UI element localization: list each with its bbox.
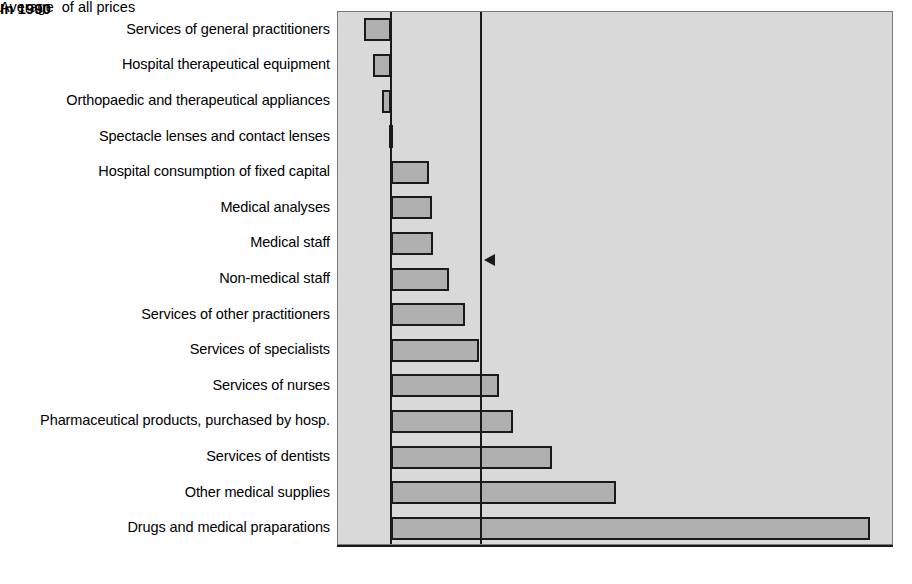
bar [391, 481, 616, 504]
average-arrow-head-icon [484, 254, 495, 266]
category-label: Medical staff [0, 235, 330, 250]
year-badge: In 1990 [0, 0, 51, 17]
bar [391, 303, 465, 326]
bar-chart: Services of general practitionersHospita… [0, 0, 912, 584]
category-axis-labels: Services of general practitionersHospita… [0, 11, 330, 545]
category-label: Services of specialists [0, 342, 330, 357]
average-reference-line [480, 12, 482, 544]
bar [391, 196, 432, 219]
bar [364, 18, 390, 41]
bar [391, 446, 553, 469]
category-label: Hospital consumption of fixed capital [0, 164, 330, 179]
bar [391, 339, 479, 362]
x-axis-line [337, 545, 893, 547]
x-axis [337, 545, 893, 584]
category-label: Pharmaceutical products, purchased by ho… [0, 413, 330, 428]
category-label: Services of nurses [0, 378, 330, 393]
category-label: Hospital therapeutical equipment [0, 57, 330, 72]
bar [391, 161, 429, 184]
category-label: Orthopaedic and therapeutical appliances [0, 93, 330, 108]
zero-baseline [390, 12, 392, 544]
category-label: Services of dentists [0, 449, 330, 464]
category-label: Drugs and medical praparations [0, 520, 330, 535]
plot-inner [338, 12, 892, 544]
category-label: Services of general practitioners [0, 22, 330, 37]
bar [391, 232, 433, 255]
bar [391, 374, 500, 397]
category-label: Other medical supplies [0, 485, 330, 500]
bar [373, 54, 390, 77]
category-label: Services of other practitioners [0, 307, 330, 322]
bar [391, 268, 449, 291]
category-label: Medical analyses [0, 200, 330, 215]
plot-area [337, 11, 893, 545]
bar [391, 517, 870, 540]
bar [391, 410, 513, 433]
category-label: Non-medical staff [0, 271, 330, 286]
category-label: Spectacle lenses and contact lenses [0, 129, 330, 144]
